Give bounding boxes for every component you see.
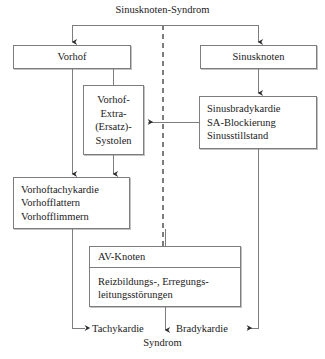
node-sinusbradykardie-line-1: Sinusbradykardie (207, 102, 281, 116)
node-vorhof-label: Vorhof (58, 50, 87, 64)
node-av-knoten-body: Reizbildungs-, Erregungs- leitungsstörun… (90, 268, 240, 308)
wire-vorhoftachykardie-to-tachykardie (72, 229, 85, 328)
node-vorhoftachykardie-line-3: Vorhofflimmern (21, 210, 89, 224)
node-vorhoftachykardie-line-1: Vorhoftachykardie (21, 183, 99, 197)
node-sinusbradykardie[interactable]: Sinusbradykardie SA-Blockierung Sinussti… (199, 96, 317, 149)
node-sinusbradykardie-line-2: SA-Blockierung (207, 116, 276, 130)
node-sinusbradykardie-line-3: Sinusstillstand (207, 129, 268, 143)
wire-sinusbradykardie-to-bradykardie (247, 149, 258, 328)
node-sinusknoten-label: Sinusknoten (233, 50, 285, 64)
node-vorhof[interactable]: Vorhof (13, 45, 131, 69)
node-av-knoten-body-line-1: Reizbildungs-, Erregungs- (98, 275, 240, 289)
node-av-knoten-header-label: AV-Knoten (98, 250, 145, 264)
node-extrasystolen-line-3: (Ersatz)- (95, 120, 132, 134)
outcome-label-tachykardie: Tachykardie (92, 322, 144, 335)
node-vorhoftachykardie[interactable]: Vorhoftachykardie Vorhofflattern Vorhoff… (13, 177, 130, 229)
node-extrasystolen-line-2: Extra- (100, 107, 126, 121)
node-extrasystolen-line-4: Systolen (95, 134, 131, 148)
sinus-node-syndrome-diagram: Sinusknoten-Syndrom Vorhof Sinusknoten V… (0, 0, 325, 359)
node-vorhof-extrasystolen[interactable]: Vorhof- Extra- (Ersatz)- Systolen (83, 85, 144, 155)
node-sinusknoten[interactable]: Sinusknoten (200, 45, 317, 69)
node-vorhoftachykardie-line-2: Vorhofflattern (21, 196, 80, 210)
node-av-knoten[interactable]: AV-Knoten Reizbildungs-, Erregungs- leit… (89, 246, 241, 307)
diagram-title: Sinusknoten-Syndrom (0, 3, 325, 16)
outcome-label-bradykardie: Bradykardie (176, 322, 228, 335)
node-av-knoten-header: AV-Knoten (90, 247, 240, 268)
outcome-label-syndrom: Syndrom (0, 336, 325, 349)
node-extrasystolen-line-1: Vorhof- (97, 93, 129, 107)
node-av-knoten-body-line-2: leitungsstörungen (98, 288, 240, 302)
